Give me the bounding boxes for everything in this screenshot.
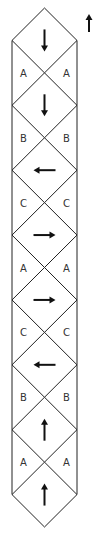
label-left: A — [20, 263, 27, 274]
arrow-up-icon — [41, 484, 48, 506]
label-right: C — [63, 198, 70, 209]
arrow-left-icon — [34, 361, 56, 368]
label-right: A — [63, 457, 70, 468]
arrow-down-icon — [41, 29, 48, 51]
legend-arrow-up-icon — [86, 14, 93, 32]
label-left: B — [20, 133, 27, 144]
label-left: C — [20, 327, 27, 338]
label-right: C — [63, 327, 70, 338]
arrow-left-icon — [34, 167, 56, 174]
arrow-right-icon — [34, 296, 56, 303]
arrow-up-icon — [41, 419, 48, 441]
label-right: B — [63, 133, 70, 144]
label-right: B — [63, 392, 70, 403]
label-right: A — [63, 68, 70, 79]
label-left: A — [20, 68, 27, 79]
label-left: A — [20, 457, 27, 468]
label-left: B — [20, 392, 27, 403]
label-left: C — [20, 198, 27, 209]
arrow-right-icon — [34, 232, 56, 239]
arrow-down-icon — [41, 94, 48, 116]
label-right: A — [63, 263, 70, 274]
diamond-strip-diagram: AABBCCAACCBBAA — [0, 0, 103, 544]
